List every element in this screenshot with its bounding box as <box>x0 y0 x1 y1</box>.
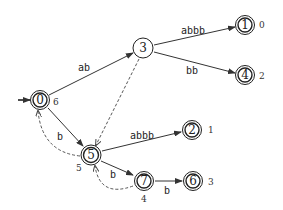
state-2: 2 1 <box>183 121 214 140</box>
svg-text:b: b <box>57 131 63 142</box>
svg-text:3: 3 <box>208 177 214 187</box>
state-3: 3 <box>133 38 153 58</box>
svg-text:ab: ab <box>78 62 90 73</box>
state-5: 5 5 <box>76 145 101 173</box>
edge-7-6: b <box>155 181 182 196</box>
edge-3-1: abbb <box>154 25 235 45</box>
svg-text:5: 5 <box>76 163 82 173</box>
state-0: 0 6 <box>31 91 60 110</box>
edge-0-3: ab <box>49 53 133 95</box>
edge-5-2: abbb <box>102 130 181 151</box>
svg-text:4: 4 <box>141 194 147 204</box>
edge-0-5: b <box>48 108 83 146</box>
svg-text:7: 7 <box>140 174 148 188</box>
svg-text:4: 4 <box>241 68 249 82</box>
svg-text:1: 1 <box>241 18 249 32</box>
svg-text:6: 6 <box>53 97 59 107</box>
state-4: 4 2 <box>236 66 265 85</box>
svg-text:abbb: abbb <box>181 25 205 36</box>
svg-text:0: 0 <box>36 93 44 107</box>
svg-text:1: 1 <box>208 125 214 135</box>
svg-text:5: 5 <box>87 148 95 162</box>
state-6: 6 3 <box>184 172 215 191</box>
edge-3-4: bb <box>154 52 235 76</box>
automaton-diagram: ab abbb bb b abbb b b 0 6 3 <box>0 0 283 210</box>
svg-text:b: b <box>164 185 170 196</box>
edge-5-7: b <box>101 161 133 180</box>
svg-text:bb: bb <box>186 65 198 76</box>
svg-text:2: 2 <box>259 71 265 81</box>
svg-text:0: 0 <box>259 20 265 30</box>
svg-text:3: 3 <box>139 41 147 55</box>
svg-text:6: 6 <box>189 174 197 188</box>
state-1: 1 0 <box>236 16 266 35</box>
state-7: 7 4 <box>135 172 154 205</box>
svg-text:b: b <box>110 169 116 180</box>
svg-text:abbb: abbb <box>130 130 154 141</box>
svg-text:2: 2 <box>188 123 196 137</box>
